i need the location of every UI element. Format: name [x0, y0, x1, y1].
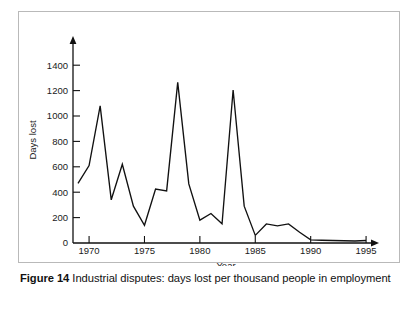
y-axis-tick-label: 600 [52, 161, 68, 172]
x-axis-tick-label: 1990 [300, 245, 321, 256]
y-axis-tick-label: 200 [52, 212, 68, 223]
x-axis-tick-label: 1985 [245, 245, 266, 256]
x-axis-tick-label: 1980 [189, 245, 210, 256]
y-axis-title: Days lost [27, 120, 38, 159]
x-axis-title: Year [216, 260, 235, 266]
figure-number: Figure 14 [20, 272, 69, 284]
y-axis-tick-label: 1200 [47, 85, 68, 96]
y-axis-tick-label: 0 [63, 237, 68, 248]
figure-container: 0200400600800100012001400197019751980198… [0, 0, 417, 311]
y-axis-tick-label: 800 [52, 136, 68, 147]
line-chart: 0200400600800100012001400197019751980198… [0, 0, 417, 266]
y-axis-arrow [70, 36, 77, 44]
x-axis-tick-label: 1970 [79, 245, 100, 256]
y-axis-tick-label: 1400 [47, 60, 68, 71]
y-axis-tick-label: 1000 [47, 110, 68, 121]
data-series-line-0 [78, 82, 366, 241]
y-axis-tick-label: 400 [52, 187, 68, 198]
x-axis-tick-label: 1995 [356, 245, 377, 256]
x-axis-tick-label: 1975 [134, 245, 155, 256]
figure-caption-text: Industrial disputes: days lost per thous… [72, 272, 390, 284]
figure-caption: Figure 14 Industrial disputes: days lost… [20, 271, 400, 286]
